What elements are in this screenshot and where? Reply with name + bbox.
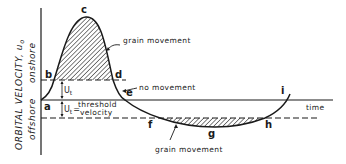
y-axis-label: ORBITAL VELOCITY, uo <box>14 39 26 150</box>
point-b: b <box>45 69 52 80</box>
no-movement-label: no movement <box>139 83 196 92</box>
point-g: g <box>208 128 215 139</box>
point-h: h <box>265 119 272 130</box>
grain-movement-bottom-label: grain movement <box>155 145 223 154</box>
grain-movement-top-leader <box>108 45 120 49</box>
point-d: d <box>115 69 122 80</box>
grain-movement-bottom-leader <box>170 126 176 140</box>
offshore-label: offshore <box>27 98 37 140</box>
grain-movement-top-label: grain movement <box>123 36 191 45</box>
point-c: c <box>81 4 87 15</box>
threshold-label-line2: velocity <box>80 108 113 117</box>
ut-upper-label: Ut <box>64 86 73 96</box>
onshore-label: onshore <box>27 42 37 83</box>
x-axis-label: time <box>306 103 325 112</box>
orbital-velocity-diagram: Ut Ut= threshold velocity c b d a e f g … <box>0 0 346 164</box>
point-f: f <box>148 119 153 130</box>
point-a: a <box>44 101 51 112</box>
onshore-grain-movement-region <box>41 17 125 100</box>
point-i: i <box>281 85 284 96</box>
